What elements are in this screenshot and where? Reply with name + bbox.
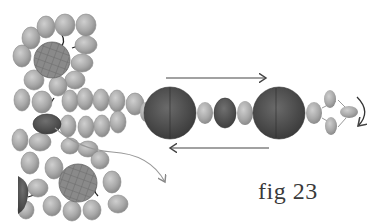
crystal-bead-bottom [59, 164, 97, 202]
strand [140, 87, 358, 139]
dark-oval-bead [214, 98, 236, 128]
figure-caption: fig 23 [258, 178, 318, 205]
curved-arrow-end [357, 97, 365, 126]
beading-diagram [0, 0, 390, 224]
large-faceted-bead-2 [253, 87, 305, 139]
dark-oval-bead-cluster [33, 114, 61, 134]
crystal-bead-top [34, 42, 70, 78]
loop-bead-top [324, 90, 336, 108]
loop-bead-bottom [325, 117, 337, 135]
loop-bead-end [340, 106, 358, 118]
